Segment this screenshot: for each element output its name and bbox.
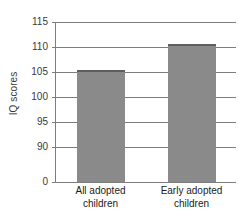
y-axis-tick-label: 115 <box>22 17 48 27</box>
bar <box>77 70 125 182</box>
bar-chart: IQ scores 09095100105110115 All adoptedc… <box>0 0 248 220</box>
y-axis-tick-label: 100 <box>22 92 48 102</box>
x-axis-category-label: Early adoptedchildren <box>146 185 237 210</box>
x-axis-category-label-line: children <box>55 198 146 211</box>
x-axis-baseline <box>55 182 236 183</box>
y-axis-tick-label: 110 <box>22 42 48 52</box>
gridline <box>55 22 236 23</box>
x-axis-category-label-line: Early adopted <box>146 185 237 198</box>
y-axis-tick-label: 0 <box>22 177 48 187</box>
y-axis-tick-mark <box>52 97 55 98</box>
x-axis-category-label-line: children <box>146 198 237 211</box>
x-axis-category-label: All adoptedchildren <box>55 185 146 210</box>
y-axis-tick-label: 95 <box>22 117 48 127</box>
y-axis-tick-labels: 09095100105110115 <box>22 0 48 220</box>
y-axis-title: IQ scores <box>8 62 19 126</box>
x-axis-category-label-line: All adopted <box>55 185 146 198</box>
y-axis-tick-label: 90 <box>22 142 48 152</box>
bar <box>168 44 216 182</box>
y-axis-tick-mark <box>52 72 55 73</box>
y-axis-tick-label: 105 <box>22 67 48 77</box>
y-axis-tick-mark <box>52 122 55 123</box>
x-axis-tick-labels: All adoptedchildrenEarly adoptedchildren <box>55 185 236 219</box>
y-axis-tick-mark <box>52 22 55 23</box>
y-axis-tick-mark <box>52 47 55 48</box>
y-axis-tick-mark <box>52 182 55 183</box>
y-axis-tick-mark <box>52 147 55 148</box>
plot-area <box>55 22 236 183</box>
